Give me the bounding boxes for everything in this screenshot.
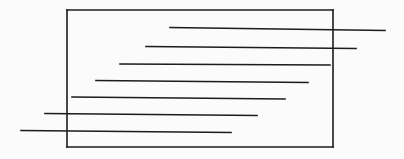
stroke-4	[96, 81, 308, 83]
outer-rectangle	[67, 10, 333, 147]
stroke-2	[146, 47, 356, 49]
stroke-6	[45, 114, 257, 116]
stroke-7	[21, 131, 231, 133]
horizontal-stroke-group	[21, 28, 385, 133]
stroke-3	[120, 64, 330, 65]
stroke-5	[72, 97, 285, 99]
stroke-1	[170, 28, 385, 31]
figure-canvas	[0, 0, 404, 159]
line-drawing-svg	[0, 0, 404, 159]
